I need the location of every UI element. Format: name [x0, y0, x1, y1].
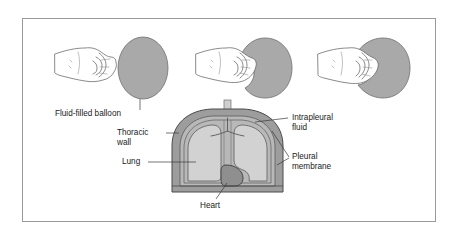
label-pleural-membrane-line2: membrane [292, 162, 332, 171]
label-heart: Heart [200, 201, 221, 210]
label-intrapleural-fluid-line2: fluid [292, 123, 307, 132]
label-thoracic-wall-line1: Thoracic [117, 128, 148, 137]
anatomy-diagram: Fluid-filled balloon [0, 0, 455, 239]
label-lung: Lung [122, 157, 141, 166]
label-intrapleural-fluid-line1: Intrapleural [292, 113, 333, 122]
label-fluid-filled-balloon: Fluid-filled balloon [55, 109, 121, 118]
balloon-shape-uncompressed [118, 37, 168, 99]
label-thoracic-wall-line2: wall [116, 138, 131, 147]
figure-root: Fluid-filled balloon [0, 0, 455, 239]
label-pleural-membrane-line1: Pleural [292, 152, 318, 161]
